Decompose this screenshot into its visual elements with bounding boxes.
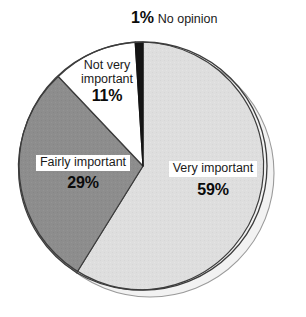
slice-name-fairly-important: Fairly important <box>36 155 130 171</box>
slice-value-not-very-important: 11% <box>68 87 146 104</box>
pie-chart: 1%No opinion Not very important 11% Fair… <box>0 0 306 317</box>
slice-value-fairly-important: 29% <box>22 174 144 191</box>
slice-name-no-opinion: No opinion <box>158 13 218 27</box>
slice-name-very-important: Very important <box>169 161 258 177</box>
slice-name-not-very-important-line1: Not very <box>68 58 146 72</box>
slice-label-no-opinion: 1%No opinion <box>131 9 218 27</box>
slice-label-very-important: Very important 59% <box>155 158 271 198</box>
slice-label-fairly-important: Fairly important 29% <box>22 152 144 191</box>
slice-label-not-very-important: Not very important 11% <box>68 58 146 104</box>
slice-value-very-important: 59% <box>155 181 271 198</box>
slice-name-not-very-important-line2: important <box>68 72 146 86</box>
slice-value-no-opinion: 1% <box>131 9 154 26</box>
